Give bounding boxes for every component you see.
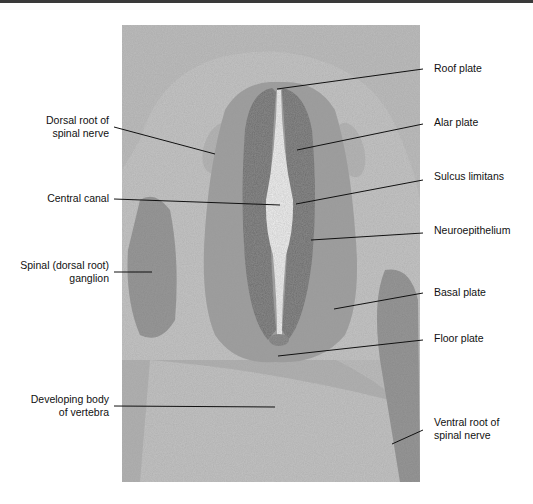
label-dorsal-root: Dorsal root of spinal nerve [46, 114, 109, 140]
label-line: Roof plate [434, 62, 482, 75]
label-vertebra-body: Developing body of vertebra [31, 393, 109, 419]
label-sulcus-limitans: Sulcus limitans [434, 170, 504, 183]
label-line: spinal nerve [434, 429, 499, 442]
label-line: Developing body [31, 393, 109, 406]
label-line: Central canal [47, 192, 109, 205]
label-spinal-ganglion: Spinal (dorsal root) ganglion [20, 259, 109, 285]
label-neuroepithelium: Neuroepithelium [434, 224, 510, 237]
label-line: Basal plate [434, 286, 486, 299]
label-ventral-root: Ventral root of spinal nerve [434, 416, 499, 442]
label-floor-plate: Floor plate [434, 332, 484, 345]
label-line: of vertebra [31, 406, 109, 419]
label-line: ganglion [20, 272, 109, 285]
floor-plate-shape [269, 334, 289, 346]
label-line: Ventral root of [434, 416, 499, 429]
label-line: Neuroepithelium [434, 224, 510, 237]
label-line: Floor plate [434, 332, 484, 345]
label-line: Sulcus limitans [434, 170, 504, 183]
label-line: Spinal (dorsal root) [20, 259, 109, 272]
label-alar-plate: Alar plate [434, 116, 478, 129]
label-line: Alar plate [434, 116, 478, 129]
label-central-canal: Central canal [47, 192, 109, 205]
label-line: Dorsal root of [46, 114, 109, 127]
label-roof-plate: Roof plate [434, 62, 482, 75]
label-line: spinal nerve [46, 127, 109, 140]
label-basal-plate: Basal plate [434, 286, 486, 299]
